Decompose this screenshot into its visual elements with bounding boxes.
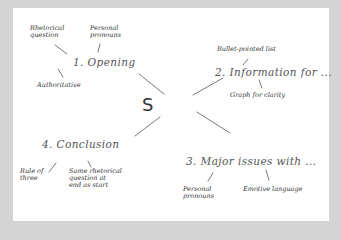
leaf-personal-pronouns-1: Personal pronouns	[90, 25, 121, 39]
leaf-rule-of-three: Rule of three	[20, 168, 43, 182]
branch-major-issues: 3. Major issues with ...	[186, 156, 316, 167]
branch-opening: 1. Opening	[73, 57, 136, 68]
leaf-text: end as start	[69, 182, 122, 189]
center-node: S	[142, 96, 153, 115]
leaf-same-rhetorical-question: Same rhetorical question at end as start	[69, 168, 122, 188]
leaf-graph-clarity: Graph for clarity	[230, 92, 285, 99]
leaf-bullet-list: Bullet-pointed list	[217, 46, 276, 53]
leaf-text: pronouns	[183, 193, 214, 200]
branch-conclusion: 4. Conclusion	[42, 139, 120, 150]
leaf-text: question	[30, 32, 64, 39]
leaf-authoritative: Authoritative	[37, 82, 80, 89]
branch-information: 2. Information for ...	[215, 67, 332, 78]
leaf-text: pronouns	[90, 32, 121, 39]
leaf-emotive-language: Emotive language	[243, 186, 302, 193]
leaf-text: three	[20, 175, 43, 182]
leaf-personal-pronouns-2: Personal pronouns	[183, 186, 214, 200]
leaf-rhetorical-question: Rhetorical question	[30, 25, 64, 39]
